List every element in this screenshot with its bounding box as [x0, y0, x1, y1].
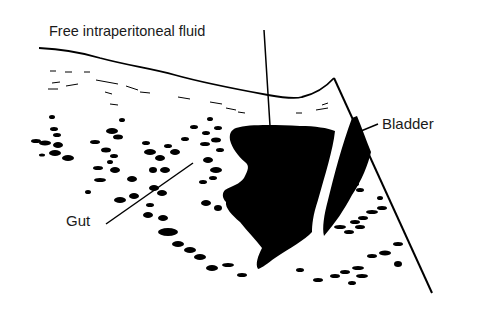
- label-bladder: Bladder: [382, 116, 434, 131]
- subcutaneous-echoes: [48, 71, 328, 113]
- label-free-intraperitoneal-fluid: Free intraperitoneal fluid: [49, 24, 205, 39]
- fluid-leader-line: [264, 30, 270, 126]
- skin-surface-line: [39, 48, 334, 98]
- free-fluid-region: [223, 125, 335, 269]
- ultrasound-diagram: [0, 0, 486, 334]
- label-gut: Gut: [66, 213, 90, 228]
- bladder-leader-line: [361, 124, 378, 131]
